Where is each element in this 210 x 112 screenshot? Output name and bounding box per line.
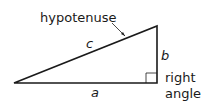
right-angle-marker xyxy=(146,73,157,83)
hypotenuse-label: hypotenuse xyxy=(40,10,116,25)
right-triangle-diagram: hypotenuse c b a right angle xyxy=(0,0,210,112)
side-b-label: b xyxy=(161,48,169,63)
side-c-label: c xyxy=(86,36,93,51)
side-a-label: a xyxy=(91,85,99,100)
right-angle-label-line2: angle xyxy=(165,86,201,101)
right-angle-label-line1: right xyxy=(165,70,196,85)
triangle xyxy=(14,26,157,83)
